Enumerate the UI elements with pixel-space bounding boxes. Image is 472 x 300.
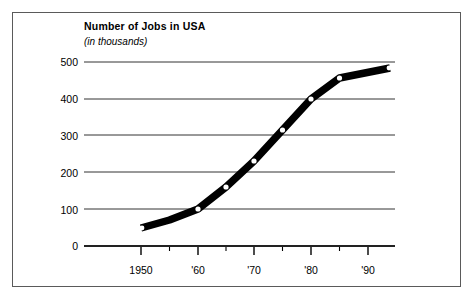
data-point-1965	[223, 184, 228, 189]
data-point-1960	[195, 206, 200, 211]
data-series-jobs	[140, 66, 392, 231]
data-point-1950	[140, 226, 145, 231]
y-gridlines	[84, 62, 395, 209]
plot-area	[0, 0, 472, 300]
data-line	[141, 68, 390, 228]
data-point-1970	[251, 158, 256, 163]
data-point-1980	[308, 96, 313, 101]
chart-figure: Number of Jobs in USA (in thousands) 500…	[0, 0, 472, 300]
data-point-1985	[337, 75, 342, 80]
data-point-1975	[280, 127, 285, 132]
data-point-1990	[387, 66, 392, 71]
x-major-ticks	[141, 247, 368, 255]
